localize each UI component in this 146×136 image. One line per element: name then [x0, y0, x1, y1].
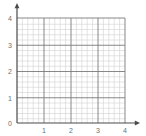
y-tick-label: 2: [8, 68, 12, 75]
x-axis: [17, 121, 140, 126]
origin-label: 0: [8, 120, 12, 127]
x-axis-arrow-icon: [135, 121, 140, 126]
major-grid-vertical: [44, 18, 125, 123]
y-tick-label: 3: [8, 42, 12, 49]
x-tick-label: 3: [96, 127, 100, 134]
y-axis: [15, 3, 20, 123]
y-tick-label: 1: [8, 95, 12, 102]
x-tick-label: 1: [42, 127, 46, 134]
y-axis-tick-labels: 1 2 3 4: [8, 15, 12, 102]
y-axis-arrow-icon: [15, 3, 20, 8]
x-axis-tick-labels: 1 2 3 4: [42, 127, 127, 134]
y-tick-label: 4: [8, 15, 12, 22]
graph-paper-screenshot: 1 2 3 4 1 2 3 4 0: [0, 0, 146, 136]
coordinate-grid-chart: 1 2 3 4 1 2 3 4 0: [0, 0, 146, 136]
x-tick-label: 4: [123, 127, 127, 134]
x-tick-label: 2: [69, 127, 73, 134]
